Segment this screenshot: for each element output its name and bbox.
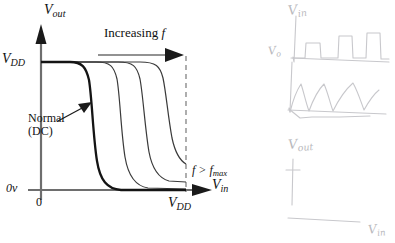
sketch-vin-bottom-label: Vin: [367, 221, 385, 237]
handwritten-sketch: [0, 0, 395, 243]
sketch-vout-label: Vout: [287, 135, 313, 152]
sketch-vout-axis-bottom: [286, 159, 360, 222]
sketch-sawtooth-waveform: [290, 83, 379, 112]
sketch-vo-top-label: Vo: [267, 43, 281, 57]
sketch-vin-top-label: Vin: [287, 1, 307, 18]
figure-root: Vout VDD 0v 0 VDD Vin Increasing f Norma…: [0, 0, 395, 243]
sketch-square-wave: [293, 33, 389, 59]
